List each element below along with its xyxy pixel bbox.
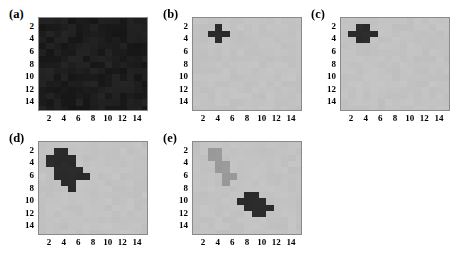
x-axis-tick-label: 6 bbox=[224, 238, 240, 247]
x-axis-tick-label: 6 bbox=[372, 114, 388, 123]
x-axis-tick-label: 14 bbox=[283, 238, 299, 247]
x-axis-tick-label: 10 bbox=[254, 114, 270, 123]
y-axis-tick-label: 4 bbox=[16, 34, 34, 43]
x-axis-tick-label: 4 bbox=[210, 238, 226, 247]
y-axis-tick-label: 8 bbox=[16, 184, 34, 193]
x-axis-tick-label: 8 bbox=[85, 114, 101, 123]
y-axis-tick-label: 12 bbox=[16, 85, 34, 94]
heatmap-raster bbox=[193, 18, 302, 111]
x-axis-tick-label: 10 bbox=[254, 238, 270, 247]
x-axis-tick-label: 12 bbox=[114, 114, 130, 123]
x-axis-tick-label: 14 bbox=[129, 114, 145, 123]
plot-area bbox=[192, 141, 302, 235]
x-axis-tick-label: 12 bbox=[114, 238, 130, 247]
y-axis-tick-label: 12 bbox=[170, 209, 188, 218]
y-axis-tick-label: 4 bbox=[16, 158, 34, 167]
heatmap-raster bbox=[193, 142, 302, 235]
y-axis-tick-label: 14 bbox=[16, 97, 34, 106]
y-axis-tick-label: 4 bbox=[170, 34, 188, 43]
x-axis-tick-label: 14 bbox=[431, 114, 447, 123]
y-axis-tick-label: 8 bbox=[170, 60, 188, 69]
x-axis-tick-label: 12 bbox=[416, 114, 432, 123]
panel-label: (e) bbox=[163, 131, 177, 146]
y-axis-tick-label: 14 bbox=[170, 97, 188, 106]
plot-area bbox=[340, 17, 450, 111]
y-axis-tick-label: 6 bbox=[170, 47, 188, 56]
y-axis-tick-label: 10 bbox=[170, 196, 188, 205]
x-axis-tick-label: 8 bbox=[239, 114, 255, 123]
y-axis-tick-label: 12 bbox=[318, 85, 336, 94]
y-axis-tick-label: 2 bbox=[318, 22, 336, 31]
y-axis-tick-label: 2 bbox=[16, 22, 34, 31]
x-axis-tick-label: 8 bbox=[85, 238, 101, 247]
y-axis-tick-label: 12 bbox=[170, 85, 188, 94]
y-axis-tick-label: 2 bbox=[16, 146, 34, 155]
y-axis-tick-label: 10 bbox=[16, 72, 34, 81]
y-axis-tick-label: 14 bbox=[170, 221, 188, 230]
y-axis-tick-label: 8 bbox=[170, 184, 188, 193]
plot-area bbox=[192, 17, 302, 111]
panel-label: (c) bbox=[311, 7, 325, 22]
y-axis-tick-label: 2 bbox=[170, 22, 188, 31]
x-axis-tick-label: 14 bbox=[129, 238, 145, 247]
y-axis-tick-label: 12 bbox=[16, 209, 34, 218]
y-axis-tick-label: 6 bbox=[318, 47, 336, 56]
x-axis-tick-label: 12 bbox=[268, 238, 284, 247]
heatmap-raster bbox=[341, 18, 450, 111]
panel-label: (d) bbox=[9, 131, 24, 146]
plot-area bbox=[38, 17, 148, 111]
y-axis-tick-label: 6 bbox=[16, 47, 34, 56]
x-axis-tick-label: 6 bbox=[70, 114, 86, 123]
x-axis-tick-label: 2 bbox=[343, 114, 359, 123]
figure-panel-grid: (a)24681012142468101214(b)24681012142468… bbox=[0, 0, 462, 261]
y-axis-tick-label: 8 bbox=[318, 60, 336, 69]
panel-label: (b) bbox=[163, 7, 178, 22]
x-axis-tick-label: 4 bbox=[210, 114, 226, 123]
x-axis-tick-label: 4 bbox=[56, 114, 72, 123]
y-axis-tick-label: 14 bbox=[318, 97, 336, 106]
y-axis-tick-label: 2 bbox=[170, 146, 188, 155]
x-axis-tick-label: 2 bbox=[41, 114, 57, 123]
x-axis-tick-label: 12 bbox=[268, 114, 284, 123]
y-axis-tick-label: 4 bbox=[170, 158, 188, 167]
x-axis-tick-label: 8 bbox=[387, 114, 403, 123]
plot-area bbox=[38, 141, 148, 235]
panel-label: (a) bbox=[9, 7, 24, 22]
y-axis-tick-label: 4 bbox=[318, 34, 336, 43]
y-axis-tick-label: 8 bbox=[16, 60, 34, 69]
heatmap-raster bbox=[39, 142, 148, 235]
y-axis-tick-label: 10 bbox=[16, 196, 34, 205]
y-axis-tick-label: 14 bbox=[16, 221, 34, 230]
heatmap-raster bbox=[39, 18, 148, 111]
y-axis-tick-label: 10 bbox=[318, 72, 336, 81]
x-axis-tick-label: 4 bbox=[56, 238, 72, 247]
x-axis-tick-label: 10 bbox=[402, 114, 418, 123]
x-axis-tick-label: 10 bbox=[100, 238, 116, 247]
x-axis-tick-label: 6 bbox=[70, 238, 86, 247]
x-axis-tick-label: 4 bbox=[358, 114, 374, 123]
y-axis-tick-label: 10 bbox=[170, 72, 188, 81]
y-axis-tick-label: 6 bbox=[16, 171, 34, 180]
x-axis-tick-label: 2 bbox=[195, 114, 211, 123]
x-axis-tick-label: 10 bbox=[100, 114, 116, 123]
x-axis-tick-label: 14 bbox=[283, 114, 299, 123]
x-axis-tick-label: 6 bbox=[224, 114, 240, 123]
x-axis-tick-label: 8 bbox=[239, 238, 255, 247]
x-axis-tick-label: 2 bbox=[195, 238, 211, 247]
x-axis-tick-label: 2 bbox=[41, 238, 57, 247]
y-axis-tick-label: 6 bbox=[170, 171, 188, 180]
